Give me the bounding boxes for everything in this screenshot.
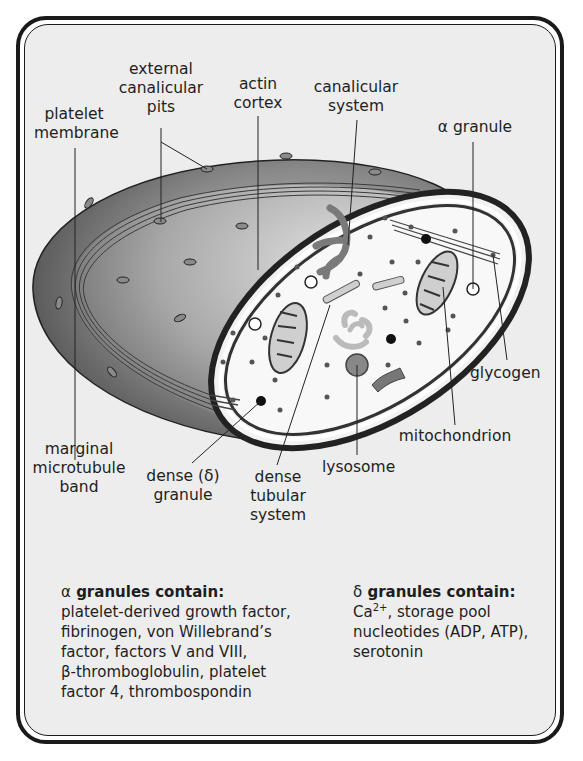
label-canalicular-system: canalicular system <box>310 78 402 116</box>
label-line: system <box>310 97 402 116</box>
label-line: external <box>115 60 207 79</box>
label-lysosome: lysosome <box>322 458 394 477</box>
alpha-legend-line: platelet-derived growth factor, <box>61 602 321 622</box>
alpha-legend-heading: α granules contain: <box>61 582 321 602</box>
delta-legend-text: , storage pool <box>387 603 490 621</box>
label-line: cortex <box>228 94 288 113</box>
label-line: platelet <box>34 105 114 124</box>
delta-symbol: δ <box>353 583 362 601</box>
label-line: pits <box>115 98 207 117</box>
label-glycogen: glycogen <box>470 364 540 383</box>
label-mitochondrion: mitochondrion <box>398 427 512 446</box>
delta-legend-heading: δ granules contain: <box>353 582 553 602</box>
alpha-symbol: α <box>61 583 71 601</box>
delta-legend-line: serotonin <box>353 642 553 662</box>
calcium-charge: 2+ <box>373 602 388 613</box>
label-line: lysosome <box>322 458 394 477</box>
label-line: membrane <box>34 124 114 143</box>
label-line: granule <box>144 486 222 505</box>
label-line: dense (δ) <box>144 467 222 486</box>
label-line: canalicular <box>310 78 402 97</box>
label-line: microtubule <box>32 459 126 478</box>
alpha-granules-legend: α granules contain: platelet-derived gro… <box>61 582 321 702</box>
label-line: dense <box>248 468 308 487</box>
alpha-legend-title: granules contain: <box>76 583 224 601</box>
label-alpha-granule: α granule <box>434 118 516 137</box>
delta-legend-line: Ca2+, storage pool <box>353 602 553 622</box>
delta-legend-title: granules contain: <box>367 583 515 601</box>
alpha-legend-line: factor 4, thrombospondin <box>61 682 321 702</box>
label-line: marginal <box>32 440 126 459</box>
delta-granules-legend: δ granules contain: Ca2+, storage pool n… <box>353 582 553 662</box>
label-marginal-microtubule-band: marginal microtubule band <box>32 440 126 497</box>
label-line: mitochondrion <box>398 427 512 446</box>
label-line: tubular <box>248 487 308 506</box>
alpha-legend-line: fibrinogen, von Willebrand’s <box>61 622 321 642</box>
label-line: band <box>32 478 126 497</box>
alpha-legend-line: β-thromboglobulin, platelet <box>61 662 321 682</box>
label-actin-cortex: actin cortex <box>228 75 288 113</box>
label-dense-tubular-system: dense tubular system <box>248 468 308 525</box>
label-line: canalicular <box>115 79 207 98</box>
delta-legend-line: nucleotides (ADP, ATP), <box>353 622 553 642</box>
label-line: system <box>248 506 308 525</box>
label-dense-granule: dense (δ) granule <box>144 467 222 505</box>
alpha-legend-line: factor, factors V and VIII, <box>61 642 321 662</box>
label-line: α granule <box>434 118 516 137</box>
label-external-canalicular-pits: external canalicular pits <box>115 60 207 117</box>
label-line: actin <box>228 75 288 94</box>
label-line: glycogen <box>470 364 540 383</box>
calcium-symbol: Ca <box>353 603 373 621</box>
label-platelet-membrane: platelet membrane <box>34 105 114 143</box>
